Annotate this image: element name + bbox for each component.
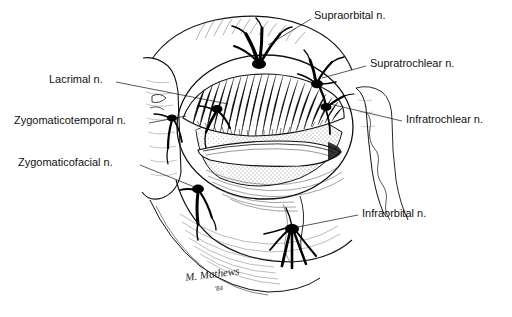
nerve-zygomaticofacial <box>180 185 216 240</box>
label-zygomaticotemporal-nerve: Zygomaticotemporal n. <box>14 115 126 126</box>
label-lacrimal-nerve: Lacrimal n. <box>49 74 103 85</box>
label-supraorbital-nerve: Supraorbital n. <box>314 10 386 21</box>
nerve-infraorbital <box>264 208 316 268</box>
label-zygomaticofacial-nerve: Zygomaticofacial n. <box>18 157 113 168</box>
artist-signature-year: '84 <box>214 284 223 293</box>
leader-infraorbital <box>293 215 358 228</box>
nerve-supraorbital <box>232 18 292 69</box>
label-infraorbital-nerve: Infraorbital n. <box>362 208 426 219</box>
anatomical-illustration: Supraorbital n. Supratrochlear n. Infrat… <box>0 0 512 317</box>
label-infratrochlear-nerve: Infratrochlear n. <box>406 114 483 125</box>
leader-supraorbital <box>268 19 311 45</box>
leader-supratrochlear <box>322 66 366 78</box>
label-supratrochlear-nerve: Supratrochlear n. <box>370 58 454 69</box>
